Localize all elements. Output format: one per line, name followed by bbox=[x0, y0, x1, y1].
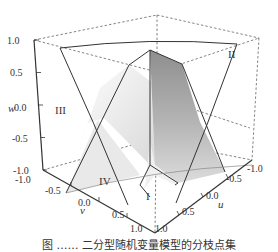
surface-region-center-dark bbox=[150, 50, 225, 183]
v-axis-label: v bbox=[80, 204, 85, 216]
region-iii-label: III bbox=[55, 104, 66, 116]
w-tick-2: 0.5 bbox=[10, 67, 23, 78]
region-iv-label: IV bbox=[99, 175, 111, 187]
u-tick-4: -0.5 bbox=[226, 173, 242, 184]
w-tick-4: -0.5 bbox=[12, 133, 28, 144]
w-tick-1: 1.0 bbox=[7, 35, 20, 46]
v-tick-5: 1.0 bbox=[130, 223, 143, 234]
v-tick-1: -1.0 bbox=[15, 174, 31, 185]
v-tick-4: 0.5 bbox=[112, 209, 125, 220]
w-tick-3: 0.0 bbox=[14, 102, 27, 113]
u-tick-5: -1.0 bbox=[247, 163, 263, 174]
w-axis-label: w bbox=[8, 102, 16, 114]
u-tick-1: 1.0 bbox=[155, 223, 168, 234]
u-tick-3: 0.0 bbox=[206, 190, 219, 201]
region-ii-label: II bbox=[228, 48, 236, 60]
v-tick-2: -0.5 bbox=[45, 185, 61, 196]
region-i-label: I bbox=[146, 190, 150, 202]
u-tick-2: 0.5 bbox=[182, 206, 195, 217]
figure-caption: 图 …… 二分型随机变量模型的分枝点集 bbox=[0, 236, 278, 252]
u-axis-label: u bbox=[218, 198, 224, 210]
